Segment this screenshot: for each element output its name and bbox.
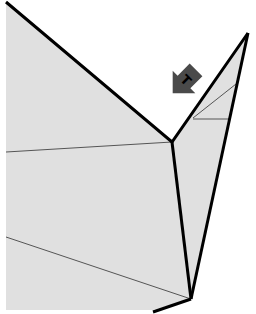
diagram-canvas: T <box>0 0 256 314</box>
direction-marker-icon[interactable]: T <box>161 59 207 105</box>
left-panel <box>6 2 191 310</box>
